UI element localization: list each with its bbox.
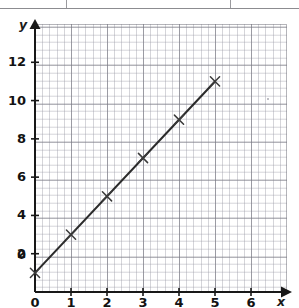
data-point-marker xyxy=(174,115,183,124)
data-line-segment xyxy=(35,81,215,272)
y-tick-label-8: 8 xyxy=(8,131,26,146)
x-tick-label-3: 3 xyxy=(135,295,151,308)
y-axis-label: y xyxy=(19,17,27,32)
x-tick-label-6: 6 xyxy=(243,295,259,308)
data-point-marker xyxy=(138,153,147,162)
data-point-marker xyxy=(102,192,111,201)
image-speck-artifact xyxy=(267,98,269,100)
x-axis-label: x xyxy=(277,294,285,308)
y-axis-arrowhead xyxy=(30,19,41,29)
x-tick-label-2: 2 xyxy=(99,295,115,308)
plot-vector-layer xyxy=(0,0,299,308)
x-tick-label-4: 4 xyxy=(171,295,187,308)
x-tick-label-0: 0 xyxy=(27,295,43,308)
data-point-marker xyxy=(66,230,75,239)
y-tick-label-2: 2 xyxy=(8,246,26,261)
y-tick-label-6: 6 xyxy=(8,169,26,184)
y-tick-label-10: 10 xyxy=(1,93,26,108)
graph-page: y x 0 2 4 6 8 10 12 0 1 2 3 4 5 6 xyxy=(0,0,299,308)
x-tick-label-1: 1 xyxy=(63,295,79,308)
x-tick-label-5: 5 xyxy=(207,295,223,308)
axes-group xyxy=(30,19,293,298)
coordinate-plot: y x 0 2 4 6 8 10 12 0 1 2 3 4 5 6 xyxy=(0,0,299,308)
y-tick-label-12: 12 xyxy=(1,54,26,69)
y-tick-label-4: 4 xyxy=(8,207,26,222)
data-point-marker xyxy=(210,77,219,86)
